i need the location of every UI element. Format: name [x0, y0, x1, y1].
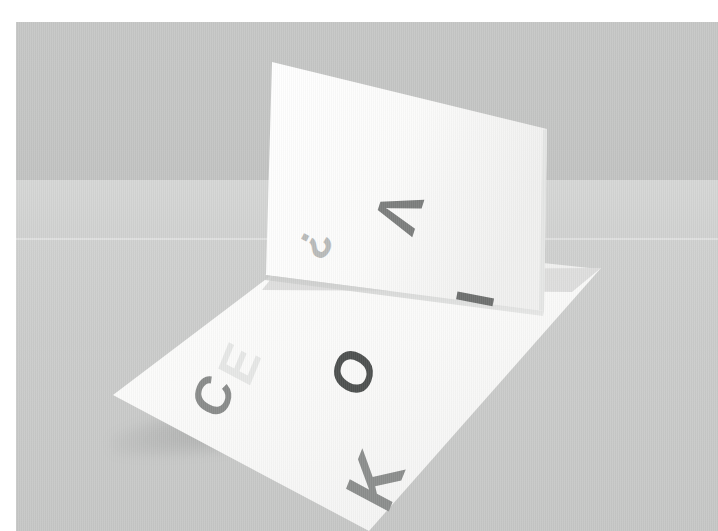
scene-root: ? V I C E O K — [0, 0, 718, 531]
card-upright-panel — [266, 62, 547, 311]
folded-card: ? V I C E O K — [16, 22, 718, 531]
photograph: ? V I C E O K — [16, 22, 718, 531]
